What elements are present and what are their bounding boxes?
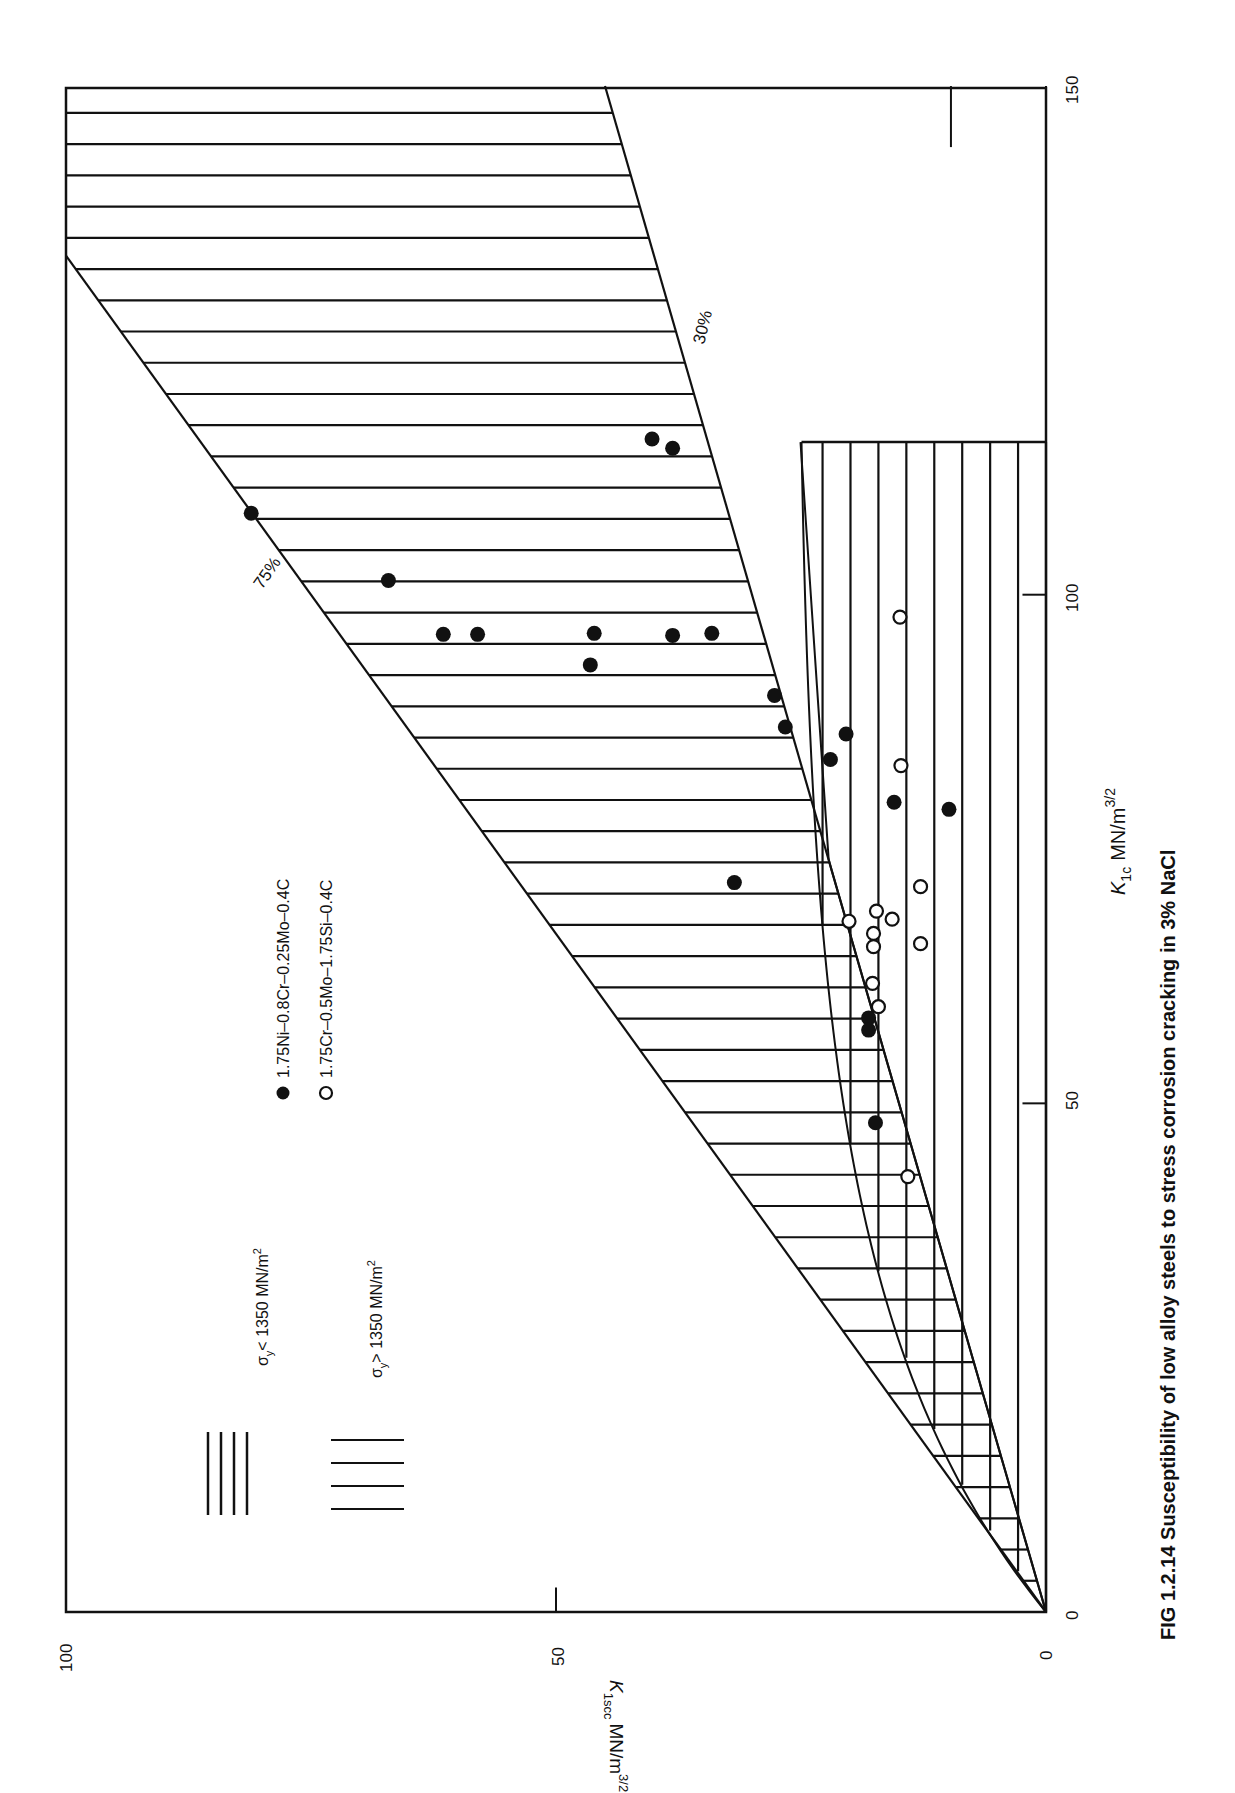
- filled-point: [470, 627, 485, 642]
- label-30-percent: 30%: [689, 308, 716, 346]
- hatch-sigma-gt-1350: [802, 442, 1046, 1612]
- y-tick-0: 0: [1037, 1651, 1056, 1660]
- x-axis-label: K1cMN/m3/2: [1102, 788, 1134, 895]
- y-tick-50: 50: [549, 1647, 568, 1666]
- hatch-sigma-lt-1350: [66, 113, 1037, 1581]
- marker-legend: 1.75Ni–0.8Cr–0.25Mo–0.4C 1.75Cr–0.5Mo–1.…: [275, 879, 335, 1100]
- open-point: [843, 915, 856, 928]
- filled-point: [665, 628, 680, 643]
- open-point: [914, 937, 927, 950]
- open-point: [901, 1170, 914, 1183]
- open-point: [867, 927, 880, 940]
- filled-point: [587, 626, 602, 641]
- x-tick-150: 150: [1063, 76, 1082, 104]
- label-75-percent: 75%: [250, 554, 285, 593]
- open-point: [872, 1000, 885, 1013]
- open-point: [866, 977, 879, 990]
- filled-point: [839, 727, 854, 742]
- filled-point: [868, 1115, 883, 1130]
- figure-caption: FIG 1.2.14 Susceptibility of low alloy s…: [1157, 850, 1179, 1640]
- svg-text:K1sccMN/m3/2: K1sccMN/m3/2: [601, 1680, 631, 1792]
- open-circle-icon: [320, 1087, 332, 1099]
- filled-point: [861, 1023, 876, 1038]
- filled-point: [941, 802, 956, 817]
- open-point: [886, 913, 899, 926]
- x-tick-100: 100: [1063, 584, 1082, 612]
- plot-frame: [66, 88, 1046, 1612]
- x-tick-0: 0: [1063, 1611, 1082, 1620]
- filled-point: [583, 657, 598, 672]
- filled-point: [381, 573, 396, 588]
- legend-label-filled: 1.75Ni–0.8Cr–0.25Mo–0.4C: [275, 879, 292, 1078]
- filled-point: [778, 719, 793, 734]
- open-point: [894, 759, 907, 772]
- filled-point: [767, 688, 782, 703]
- svg-text:K1cMN/m3/2: K1cMN/m3/2: [1102, 788, 1134, 895]
- hatch-legend-lt: σy< 1350 MN/m2: [208, 1248, 275, 1515]
- y-axis-label: K1sccMN/m3/2: [601, 1680, 631, 1792]
- svg-text:σy< 1350 MN/m2: σy< 1350 MN/m2: [251, 1248, 275, 1366]
- line-75-percent: [66, 256, 1046, 1612]
- x-tick-50: 50: [1063, 1091, 1082, 1110]
- filled-point: [665, 441, 680, 456]
- open-point: [867, 940, 880, 953]
- hatch-legend-gt: σy> 1350 MN/m2: [331, 1260, 404, 1509]
- chart: 0 50 100 150 0 50 100 K1sccMN/m3/2 K1cMN…: [0, 0, 1235, 1793]
- svg-text:σy> 1350 MN/m2: σy> 1350 MN/m2: [365, 1260, 389, 1378]
- filled-point: [645, 432, 660, 447]
- filled-point: [244, 506, 259, 521]
- axis-ticks: [556, 86, 1046, 1612]
- filled-point: [823, 752, 838, 767]
- filled-point: [887, 795, 902, 810]
- open-point: [893, 611, 906, 624]
- filled-point: [727, 875, 742, 890]
- y-tick-100: 100: [57, 1644, 76, 1672]
- open-point: [870, 905, 883, 918]
- open-point: [914, 880, 927, 893]
- filled-point: [436, 627, 451, 642]
- filled-circle-icon: [277, 1087, 290, 1100]
- sigma-gt-1350-boundary: [802, 442, 1046, 1612]
- reference-lines: [66, 86, 1046, 1612]
- inner-boundary: [801, 442, 1046, 1612]
- legend-label-open: 1.75Cr–0.5Mo–1.75Si–0.4C: [318, 880, 335, 1078]
- filled-point: [704, 626, 719, 641]
